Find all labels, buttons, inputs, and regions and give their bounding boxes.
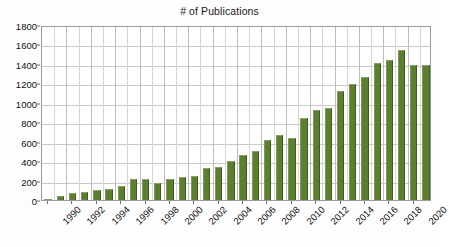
x-axis-tick-label: 2002: [207, 204, 230, 227]
bar: [227, 161, 234, 200]
bar: [130, 179, 137, 200]
bar: [142, 179, 149, 200]
bar: [191, 176, 198, 201]
bar: [288, 138, 295, 201]
x-axis-tick-mark: [218, 201, 219, 204]
bar: [337, 91, 344, 200]
x-axis-tick-label: 1994: [109, 204, 132, 227]
x-axis-tick-mark: [340, 201, 341, 204]
x-axis-tick-mark: [291, 201, 292, 204]
bar: [349, 84, 356, 200]
bar: [361, 77, 368, 200]
x-axis-tick-mark: [71, 201, 72, 204]
y-axis-tick-mark: [37, 162, 40, 163]
bar: [105, 189, 112, 200]
x-axis-tick-label: 2012: [328, 204, 351, 227]
x-axis-tick-label: 1996: [133, 204, 156, 227]
x-axis-tick-mark: [364, 201, 365, 204]
x-axis-tick-mark: [413, 201, 414, 204]
bar: [69, 193, 76, 200]
x-axis-tick-mark: [96, 201, 97, 204]
x-axis-tick-mark: [388, 201, 389, 204]
bar: [313, 110, 320, 200]
x-axis-tick-mark: [120, 201, 121, 204]
y-axis-tick-label: 1800: [0, 21, 37, 32]
bar: [215, 167, 222, 200]
x-axis-tick-label: 2008: [280, 204, 303, 227]
x-axis-tick-mark: [242, 201, 243, 204]
x-axis-tick-label: 2016: [377, 204, 400, 227]
bar: [44, 199, 51, 200]
bar: [386, 60, 393, 200]
y-axis-tick-mark: [37, 142, 40, 143]
x-axis: 1990199219941996199820002002200420062008…: [41, 201, 431, 247]
plot-area: [41, 26, 431, 201]
y-axis: 020040060080010001200140016001800: [0, 26, 37, 201]
x-axis-tick-label: 2014: [353, 204, 376, 227]
bar: [252, 151, 259, 200]
bar: [264, 140, 271, 200]
y-axis-tick-label: 600: [0, 137, 37, 148]
x-axis-tick-label: 1998: [158, 204, 181, 227]
x-axis-tick-label: 1992: [85, 204, 108, 227]
bar: [398, 50, 405, 200]
bar: [154, 183, 161, 200]
chart-title: # of Publications: [0, 5, 439, 17]
y-axis-tick-label: 0: [0, 196, 37, 207]
x-axis-tick-label: 1990: [60, 204, 83, 227]
bar: [179, 177, 186, 200]
bar: [57, 196, 64, 200]
x-axis-tick-label: 2000: [182, 204, 205, 227]
y-axis-tick-mark: [37, 103, 40, 104]
y-axis-tick-label: 1600: [0, 40, 37, 51]
x-axis-tick-mark: [47, 201, 48, 204]
x-axis-tick-label: 2004: [231, 204, 254, 227]
y-axis-tick-label: 400: [0, 157, 37, 168]
y-axis-tick-label: 1400: [0, 59, 37, 70]
x-axis-tick-mark: [266, 201, 267, 204]
x-axis-tick-label: 2020: [426, 204, 449, 227]
x-axis-tick-mark: [193, 201, 194, 204]
bar: [374, 63, 381, 200]
x-axis-tick-mark: [169, 201, 170, 204]
x-axis-tick-mark: [145, 201, 146, 204]
bar: [118, 186, 125, 200]
x-axis-tick-mark: [315, 201, 316, 204]
y-axis-tick-mark: [37, 84, 40, 85]
y-axis-tick-mark: [37, 64, 40, 65]
bar: [81, 192, 88, 200]
bar: [166, 179, 173, 200]
y-axis-tick-mark: [37, 201, 40, 202]
y-axis-tick-mark: [37, 26, 40, 27]
y-axis-tick-mark: [37, 123, 40, 124]
y-axis-tick-label: 200: [0, 176, 37, 187]
bar: [422, 65, 429, 200]
bar: [239, 155, 246, 200]
bar: [300, 118, 307, 200]
y-axis-tick-label: 800: [0, 118, 37, 129]
bar: [276, 135, 283, 200]
x-axis-tick-label: 2018: [402, 204, 425, 227]
x-axis-tick-label: 2006: [255, 204, 278, 227]
y-axis-tick-mark: [37, 181, 40, 182]
y-axis-tick-label: 1000: [0, 98, 37, 109]
bar: [410, 65, 417, 200]
bar: [325, 108, 332, 200]
bars-layer: [42, 27, 430, 200]
bar: [93, 190, 100, 200]
x-axis-tick-label: 2010: [304, 204, 327, 227]
y-axis-tick-label: 1200: [0, 79, 37, 90]
y-axis-tick-mark: [37, 45, 40, 46]
bar: [203, 168, 210, 200]
